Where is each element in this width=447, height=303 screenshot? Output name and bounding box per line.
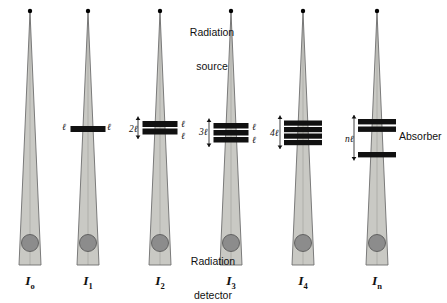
dimension-arrow-up — [207, 119, 212, 123]
radiation-detector — [22, 235, 39, 252]
thickness-label-col4-left: 4ℓ — [270, 128, 279, 138]
dimension-arrow-down — [136, 135, 141, 139]
radiation-detector-label-line1: Radiation — [168, 256, 258, 267]
radiation-source-point — [375, 9, 379, 13]
radiation-detector — [152, 235, 169, 252]
radiation-detector — [295, 235, 312, 252]
thickness-label-col1-right: ℓ — [107, 122, 111, 132]
radiation-detector — [80, 235, 97, 252]
absorber-layer — [358, 127, 396, 132]
absorber-stack-I1 — [71, 126, 106, 132]
thickness-label-col2-right-1: ℓ — [181, 119, 185, 129]
absorber-layer — [358, 152, 396, 157]
intensity-label-In: In — [357, 274, 397, 291]
intensity-label-I3: I3 — [211, 274, 251, 291]
absorber-stack-I3 — [214, 123, 249, 143]
beam-column-Io — [19, 9, 41, 265]
dimension-arrow-up — [352, 115, 357, 119]
absorber-layer — [143, 121, 178, 127]
radiation-source-point — [301, 9, 305, 13]
absorber-layer — [214, 123, 249, 129]
thickness-label-col1-left: ℓ — [62, 122, 66, 132]
absorber-layer — [214, 130, 249, 136]
beam-column-I1 — [77, 9, 99, 265]
dimension-arrow-down — [278, 145, 283, 149]
thickness-label-coln-left: nℓ — [345, 134, 354, 144]
thickness-label-col2-left: 2ℓ — [129, 124, 138, 134]
intensity-subscript: n — [377, 281, 382, 291]
radiation-detector-label: Radiation detector — [168, 233, 258, 303]
absorber-layer — [143, 129, 178, 135]
radiation-source-point — [28, 9, 32, 13]
radiation-source-point — [158, 9, 162, 13]
dimension-arrow-down — [207, 143, 212, 147]
intensity-subscript: 2 — [161, 281, 165, 291]
intensity-label-I0: Io — [10, 274, 50, 291]
intensity-label-I1: I1 — [68, 274, 108, 291]
absorber-layer — [284, 127, 322, 132]
dimension-arrow-up — [278, 116, 283, 120]
radiation-source-label-line1: Radiation — [167, 27, 257, 38]
thickness-label-col3-right-2: ℓ — [252, 135, 256, 145]
thickness-label-col3-right-1: ℓ — [252, 122, 256, 132]
intensity-subscript: 3 — [232, 281, 236, 291]
intensity-label-I4: I4 — [283, 274, 323, 291]
radiation-detector-label-line2: detector — [168, 290, 258, 301]
absorber-layer — [284, 121, 322, 126]
absorber-layer — [71, 126, 106, 132]
thickness-label-col2-right-2: ℓ — [181, 131, 185, 141]
thickness-label-col3-left: 3ℓ — [199, 127, 208, 137]
dimension-arrow-up — [136, 117, 141, 121]
intensity-subscript: 1 — [89, 281, 93, 291]
intensity-label-I2: I2 — [140, 274, 180, 291]
dimension-arrow-down — [352, 157, 357, 161]
radiation-source-point — [86, 9, 90, 13]
absorber-layer — [284, 134, 322, 139]
beam-column-In — [366, 9, 388, 265]
absorber-layer — [358, 119, 396, 124]
intensity-subscript: o — [31, 281, 35, 291]
radiation-detector — [369, 235, 386, 252]
absorber-label: Absorber — [399, 131, 442, 142]
intensity-subscript: 4 — [304, 281, 308, 291]
radiation-source-label: Radiation source — [167, 4, 257, 83]
absorber-layer — [284, 140, 322, 145]
absorber-layer — [214, 137, 249, 143]
radiation-source-label-line2: source — [167, 61, 257, 72]
